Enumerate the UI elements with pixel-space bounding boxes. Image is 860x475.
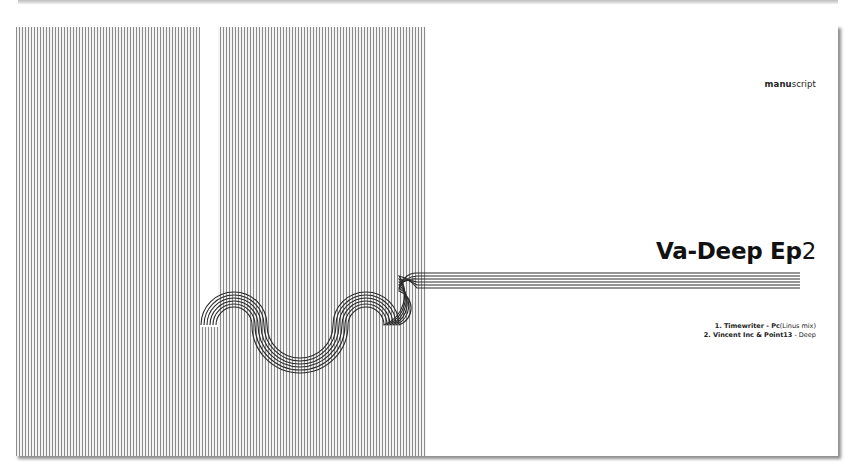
top-border: [18, 0, 838, 4]
track-artist: Timewriter: [724, 322, 764, 330]
track-note: (Linus mix): [780, 322, 816, 330]
album-cover: manuscript Va-Deep Ep2 1. Timewriter - P…: [15, 25, 838, 456]
track-item: 1. Timewriter - Pc(Linus mix): [704, 322, 816, 331]
track-number: 2.: [704, 331, 711, 339]
title-bold: Va-Deep Ep: [656, 238, 802, 264]
track-number: 1.: [715, 322, 722, 330]
track-title: Pc: [771, 322, 780, 330]
track-note: Deep: [799, 331, 816, 339]
brand-bold: manu: [765, 79, 792, 89]
title-number: 2: [802, 238, 816, 264]
brand-logo: manuscript: [765, 79, 816, 89]
brand-regular: script: [792, 79, 816, 89]
track-artist: Vincent Inc & Point13: [713, 331, 792, 339]
track-item: 2. Vincent Inc & Point13 - Deep: [704, 331, 816, 340]
tracklist: 1. Timewriter - Pc(Linus mix) 2. Vincent…: [704, 322, 816, 340]
release-title: Va-Deep Ep2: [656, 238, 816, 264]
